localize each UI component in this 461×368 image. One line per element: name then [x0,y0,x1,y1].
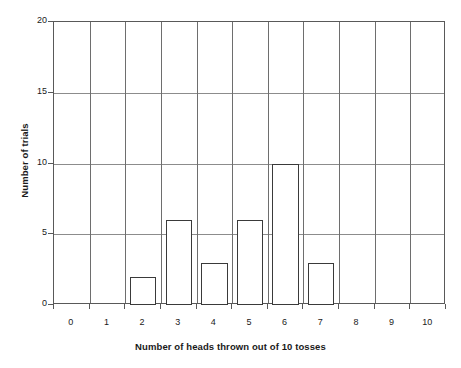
y-tick-mark [48,92,53,93]
x-tick-label: 1 [88,317,124,327]
x-tick-label: 10 [409,317,445,327]
y-tick-mark [48,233,53,234]
gridline-vertical [197,22,198,303]
x-tick-mark [89,304,90,309]
gridline-vertical [125,22,126,303]
y-tick-mark [48,21,53,22]
x-tick-label: 8 [338,317,374,327]
y-tick-label: 5 [17,227,47,237]
gridline-vertical [303,22,304,303]
x-tick-mark [196,304,197,309]
gridline-vertical [410,22,411,303]
y-tick-label: 15 [17,86,47,96]
bar-chart: Number of trials Number of heads thrown … [0,0,461,368]
x-tick-mark [338,304,339,309]
x-tick-label: 2 [124,317,160,327]
bar [201,263,227,305]
y-tick-label: 0 [17,298,47,308]
x-tick-label: 0 [53,317,89,327]
gridline-vertical [268,22,269,303]
gridline-vertical [339,22,340,303]
x-tick-label: 3 [160,317,196,327]
gridline-vertical [161,22,162,303]
x-tick-mark [374,304,375,309]
x-tick-mark [124,304,125,309]
y-tick-label: 20 [17,15,47,25]
x-tick-mark [302,304,303,309]
x-tick-mark [267,304,268,309]
gridline-horizontal [54,164,444,165]
gridline-vertical [375,22,376,303]
x-tick-mark [53,304,54,309]
y-tick-label: 10 [17,157,47,167]
gridline-horizontal [54,93,444,94]
x-tick-label: 9 [374,317,410,327]
x-tick-mark [409,304,410,309]
gridline-vertical [90,22,91,303]
plot-area [53,21,445,304]
bar [308,263,334,305]
bar [237,220,263,305]
x-tick-mark [160,304,161,309]
bar [272,164,298,306]
bar [130,277,156,305]
y-tick-mark [48,163,53,164]
bar [166,220,192,305]
x-tick-label: 5 [231,317,267,327]
x-axis-title: Number of heads thrown out of 10 tosses [0,341,461,352]
x-tick-mark [445,304,446,309]
x-tick-mark [231,304,232,309]
gridline-vertical [232,22,233,303]
x-tick-label: 4 [195,317,231,327]
x-tick-label: 7 [302,317,338,327]
x-tick-label: 6 [267,317,303,327]
